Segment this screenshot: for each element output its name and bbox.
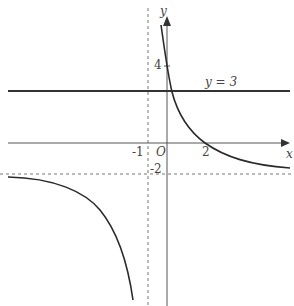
origin-label: O <box>156 146 166 158</box>
y-tick-label-4: 4 <box>154 59 162 71</box>
x-tick-label-neg1: -1 <box>132 146 144 158</box>
x-tick-label-2: 2 <box>202 146 210 158</box>
curve-left-branch <box>8 177 133 300</box>
x-axis-arrow <box>281 139 290 147</box>
curve-right-branch <box>161 25 290 168</box>
y-tick-label-neg2: -2 <box>150 163 162 175</box>
graph-canvas <box>0 0 294 306</box>
line-label-y3: y = 3 <box>205 76 237 88</box>
x-axis-label: x <box>286 148 293 160</box>
y-axis-label: y <box>160 5 167 17</box>
